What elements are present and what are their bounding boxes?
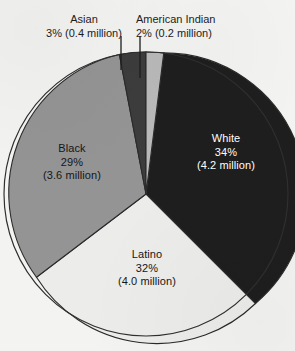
slice-callout-asian-value: 3% (0.4 million)	[30, 26, 138, 40]
slice-label-latino-count: (4.0 million)	[92, 275, 202, 289]
slice-callout-asian: Asian 3% (0.4 million)	[30, 12, 138, 40]
slice-callout-asian-name: Asian	[30, 12, 138, 26]
slice-callout-american-indian: American Indian 2% (0.2 million)	[136, 12, 266, 40]
slice-label-black-percent: 29%	[20, 156, 124, 170]
slice-label-black-count: (3.6 million)	[20, 169, 124, 183]
slice-label-latino-percent: 32%	[92, 262, 202, 276]
slice-label-white: White 34% (4.2 million)	[178, 132, 274, 173]
slice-callout-american-indian-value: 2% (0.2 million)	[136, 26, 266, 40]
slice-label-latino: Latino 32% (4.0 million)	[92, 248, 202, 289]
slice-label-white-name: White	[178, 132, 274, 146]
slice-callout-american-indian-name: American Indian	[136, 12, 266, 26]
slice-label-white-percent: 34%	[178, 146, 274, 160]
slice-label-white-count: (4.2 million)	[178, 159, 274, 173]
slice-label-black: Black 29% (3.6 million)	[20, 142, 124, 183]
slice-label-black-name: Black	[20, 142, 124, 156]
pie-chart-figure: White 34% (4.2 million) Latino 32% (4.0 …	[0, 0, 295, 351]
slice-label-latino-name: Latino	[92, 248, 202, 262]
